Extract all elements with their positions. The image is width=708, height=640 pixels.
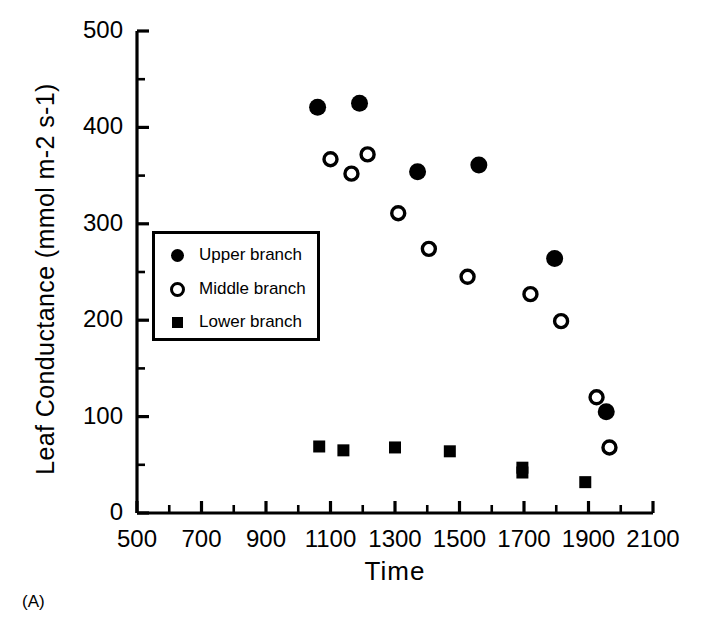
figure-panel-a: Leaf Conductance (mmol m-2 s-1) 01002003…: [0, 0, 708, 640]
data-point: [313, 440, 325, 452]
legend-label: Lower branch: [199, 312, 302, 332]
y-tick-label: 100: [53, 402, 123, 430]
filled-square-icon: [155, 317, 199, 328]
series-middle-branch: [324, 148, 616, 454]
legend: Upper branch Middle branch Lower branch: [152, 231, 320, 341]
data-point: [590, 391, 603, 404]
series-lower-branch: [313, 440, 591, 488]
legend-label: Upper branch: [199, 245, 302, 265]
data-point: [422, 242, 435, 255]
y-tick-label: 500: [53, 16, 123, 44]
data-point: [345, 167, 358, 180]
data-point: [546, 250, 563, 267]
y-tick-label: 0: [53, 498, 123, 526]
data-point: [579, 476, 591, 488]
x-axis-title: Time: [137, 556, 653, 587]
data-point: [324, 153, 337, 166]
legend-label: Middle branch: [199, 279, 306, 299]
legend-item-middle-branch: Middle branch: [155, 272, 317, 306]
y-tick-label: 300: [53, 209, 123, 237]
open-circle-icon: [155, 282, 199, 297]
data-point: [598, 403, 615, 420]
filled-circle-icon: [155, 249, 199, 262]
y-axis-title: Leaf Conductance (mmol m-2 s-1): [22, 38, 68, 520]
data-point: [392, 207, 405, 220]
data-point: [361, 148, 374, 161]
x-tick-label: 2100: [613, 525, 693, 553]
y-tick-label: 400: [53, 112, 123, 140]
series-upper-branch: [309, 95, 615, 420]
data-point: [461, 270, 474, 283]
panel-label: (A): [22, 592, 45, 612]
y-tick-label: 200: [53, 305, 123, 333]
data-point: [516, 467, 528, 479]
data-point: [309, 99, 326, 116]
data-point: [351, 95, 368, 112]
legend-item-lower-branch: Lower branch: [155, 305, 317, 339]
data-point: [337, 444, 349, 456]
data-point: [470, 156, 487, 173]
data-point: [603, 441, 616, 454]
data-point: [524, 288, 537, 301]
data-point: [409, 163, 426, 180]
data-point: [444, 445, 456, 457]
data-point: [555, 315, 568, 328]
data-point: [389, 441, 401, 453]
legend-item-upper-branch: Upper branch: [155, 238, 317, 272]
